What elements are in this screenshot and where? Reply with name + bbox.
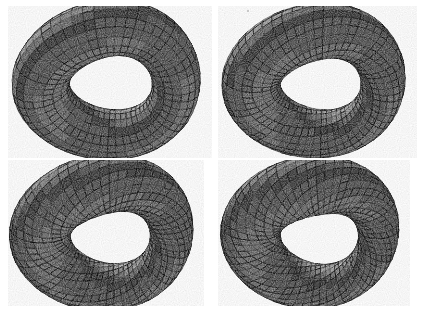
mesh-quad bbox=[387, 95, 394, 102]
mesh-quad bbox=[163, 82, 173, 88]
mesh-quad bbox=[107, 145, 116, 152]
mesh-quad bbox=[315, 120, 321, 128]
surface-mesh-panel-bottom-right bbox=[218, 160, 424, 306]
surface-panel-stage-4 bbox=[218, 160, 424, 306]
mesh-quad bbox=[343, 162, 352, 167]
mesh-quads bbox=[221, 160, 399, 306]
mesh-quad bbox=[252, 87, 262, 93]
mesh-quad bbox=[121, 113, 126, 120]
mesh-quad bbox=[108, 128, 115, 137]
mesh-quad bbox=[380, 95, 388, 102]
mesh-quad bbox=[323, 26, 332, 37]
mesh-quad bbox=[94, 17, 105, 28]
mesh-quads bbox=[12, 6, 200, 158]
mesh-quads bbox=[222, 6, 405, 158]
mesh-quad bbox=[128, 160, 137, 163]
mesh-quad bbox=[172, 95, 181, 102]
mesh-quad bbox=[115, 17, 126, 27]
mesh-quad bbox=[333, 10, 343, 17]
mesh-quad bbox=[137, 163, 146, 170]
mesh-quad bbox=[107, 153, 117, 158]
mesh-quad bbox=[115, 120, 121, 128]
surface-panel-stage-1 bbox=[8, 6, 214, 158]
mesh-quad bbox=[321, 134, 328, 143]
mesh-quad bbox=[104, 263, 109, 266]
mesh-quad bbox=[378, 89, 387, 95]
mesh-quad bbox=[312, 143, 321, 151]
surface-mesh-panel-bottom-left bbox=[8, 160, 214, 306]
scan-speck bbox=[247, 10, 249, 12]
figure-title: Torus deformation sequence bbox=[0, 21, 1, 22]
mesh-quad bbox=[382, 255, 387, 262]
mesh-quad bbox=[97, 152, 107, 158]
surface-panel-stage-3 bbox=[8, 160, 214, 306]
mesh-quad bbox=[109, 114, 115, 120]
mesh-quad bbox=[107, 46, 114, 53]
surface-mesh-panel-top-left bbox=[8, 6, 214, 158]
mesh-quad bbox=[332, 17, 342, 26]
mesh-quad bbox=[306, 109, 311, 114]
mesh-quad bbox=[115, 128, 122, 137]
mesh-quad bbox=[109, 120, 115, 128]
mesh-quad bbox=[172, 88, 181, 95]
mesh-quad bbox=[333, 6, 343, 10]
mesh-quad bbox=[114, 37, 123, 46]
mesh-quad bbox=[125, 18, 137, 29]
mesh-quad bbox=[114, 46, 122, 53]
mesh-quad bbox=[323, 17, 333, 27]
mesh-quad bbox=[106, 37, 115, 47]
mesh-quad bbox=[105, 17, 116, 27]
mesh-quad bbox=[386, 102, 393, 109]
mesh-quad bbox=[33, 96, 43, 103]
surface-mesh-panel-top-right bbox=[218, 6, 424, 158]
mesh-quad bbox=[108, 137, 116, 146]
mesh-quad bbox=[115, 27, 125, 37]
mesh-quad bbox=[42, 238, 53, 243]
mesh-quad bbox=[128, 162, 138, 169]
mesh-quad bbox=[316, 110, 321, 114]
mesh-quad bbox=[173, 258, 179, 265]
mesh-quad bbox=[105, 9, 116, 18]
mesh-quad bbox=[116, 9, 128, 18]
mesh-quad bbox=[98, 145, 108, 153]
mesh-quad bbox=[310, 114, 316, 120]
mesh-quad bbox=[316, 114, 322, 120]
figure-description: Four grayscale wireframe renderings of a… bbox=[0, 16, 1, 17]
mesh-quad bbox=[311, 110, 316, 114]
mesh-quad bbox=[99, 263, 104, 267]
figure-plate: Torus deformation sequence Four grayscal… bbox=[0, 0, 428, 309]
mesh-quad bbox=[386, 249, 391, 256]
mesh-quad bbox=[173, 251, 179, 258]
mesh-quad bbox=[180, 251, 185, 258]
surface-panel-stage-2 bbox=[218, 6, 424, 158]
mesh-quad bbox=[243, 98, 255, 104]
mesh-quads bbox=[10, 160, 193, 306]
mesh-quad bbox=[314, 27, 323, 39]
mesh-quad bbox=[105, 27, 115, 38]
mesh-quad bbox=[115, 114, 121, 120]
